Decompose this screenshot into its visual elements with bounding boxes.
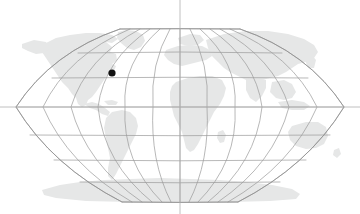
land-india xyxy=(246,78,266,102)
land-madagascar xyxy=(217,130,226,143)
land-indonesia xyxy=(278,100,310,110)
map-canvas xyxy=(0,0,360,214)
reference-crosshair xyxy=(0,0,360,214)
land-southeast-asia xyxy=(270,80,296,100)
land-northern-europe xyxy=(178,34,204,46)
world-map-figure xyxy=(0,0,360,214)
land-central-america xyxy=(84,102,110,116)
landmass-group xyxy=(22,30,341,202)
land-caribbean xyxy=(104,100,118,105)
land-europe xyxy=(164,45,212,66)
land-new-zealand xyxy=(333,148,341,158)
land-north-america xyxy=(42,33,118,107)
land-antarctica xyxy=(42,178,300,202)
land-africa xyxy=(170,76,226,152)
location-marker-dot[interactable] xyxy=(108,69,115,76)
